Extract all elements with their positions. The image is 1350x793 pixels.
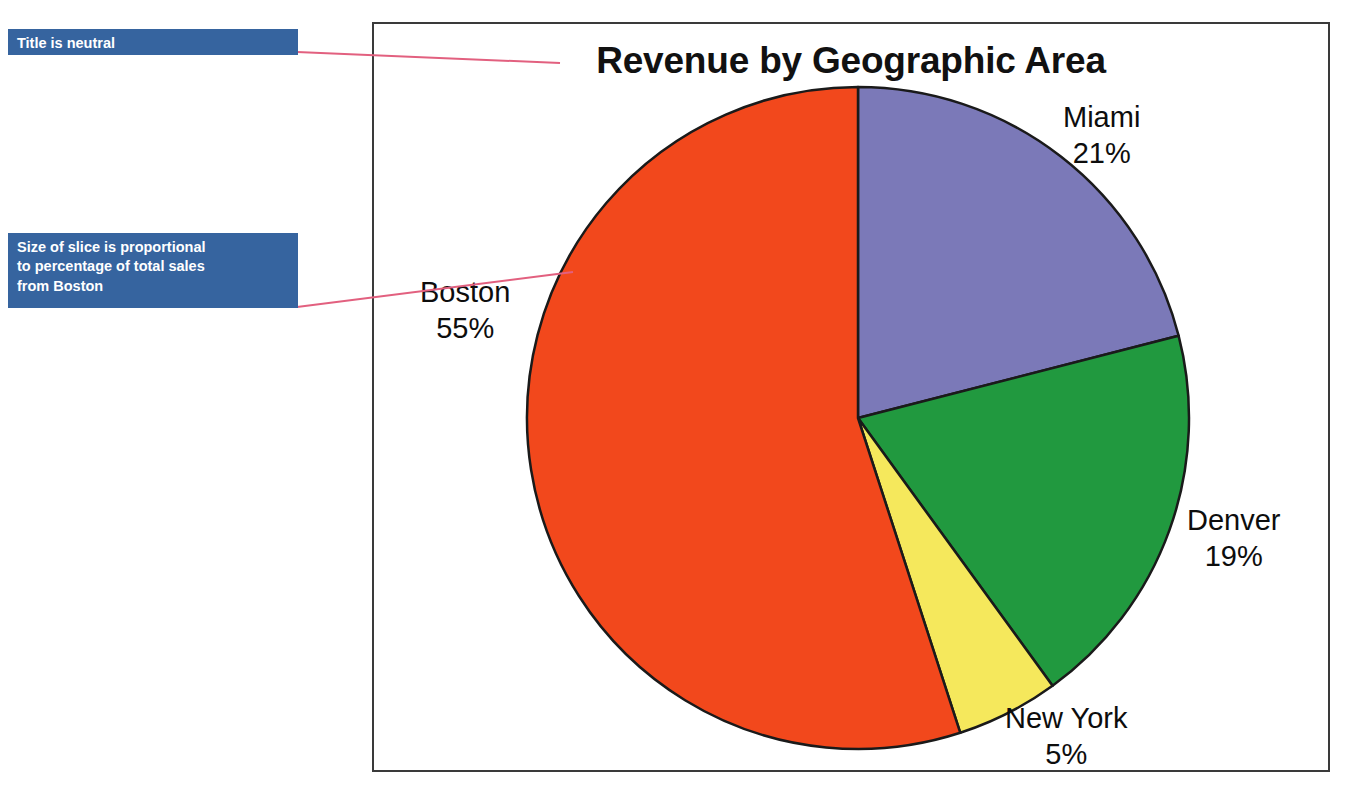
pie-label-miami-name: Miami — [1063, 101, 1140, 133]
pie-label-denver: Denver 19% — [1187, 503, 1281, 575]
annotation-slice-note-line2: to percentage of total sales — [17, 257, 289, 276]
annotation-slice-note: Size of slice is proportional to percent… — [8, 233, 298, 308]
pie-label-denver-name: Denver — [1187, 504, 1281, 536]
pie-label-boston-name: Boston — [420, 276, 510, 308]
chart-panel: Revenue by Geographic Area — [372, 22, 1330, 772]
pie-label-boston-value: 55% — [420, 311, 510, 347]
annotation-title-note-text: Title is neutral — [17, 35, 115, 51]
annotation-slice-note-line1: Size of slice is proportional — [17, 238, 289, 257]
pie-label-boston: Boston 55% — [420, 275, 510, 347]
chart-title: Revenue by Geographic Area — [374, 40, 1328, 82]
pie-label-new-york-name: New York — [1005, 702, 1128, 734]
pie-label-miami: Miami 21% — [1063, 100, 1140, 172]
pie-label-denver-value: 19% — [1187, 539, 1281, 575]
pie-label-new-york-value: 5% — [1005, 737, 1128, 773]
annotation-title-note: Title is neutral — [8, 29, 298, 55]
pie-label-miami-value: 21% — [1063, 136, 1140, 172]
annotation-slice-note-line3: from Boston — [17, 277, 289, 296]
pie-label-new-york: New York 5% — [1005, 701, 1128, 773]
